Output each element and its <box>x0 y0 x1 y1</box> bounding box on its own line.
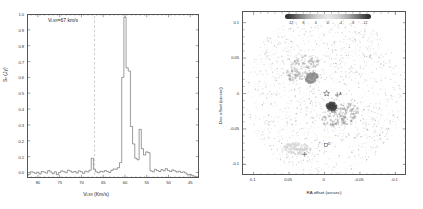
colorbar-tick: -8 <box>351 21 354 25</box>
map-x-tick: 0.05 <box>284 177 292 182</box>
map-y-axis-label: Dec offset (arcsec) <box>218 87 223 124</box>
maser-spectrum-panel: VLSR=67 km/s Sν (Jy) VLSR (Km/s) 8075706… <box>0 0 212 209</box>
map-x-tick: 0.1 <box>250 177 256 182</box>
map-x-tick: 0 <box>322 177 324 182</box>
marker-label-square-marker-c: C <box>335 108 337 112</box>
spectrum-x-tick: 70 <box>79 180 83 185</box>
position-map-panel: 12840-4-8-12 Dec offset (arcsec) RA offs… <box>212 0 423 209</box>
spectrum-y-tick: 0.2 <box>18 138 24 143</box>
map-cluster-sw-faint <box>283 142 312 155</box>
vlsr-annotation: VLSR=67 km/s <box>48 17 78 23</box>
spectrum-x-tick: 65 <box>101 180 105 185</box>
marker-label-square-marker-d: D <box>328 142 330 146</box>
colorbar-tick: 12 <box>289 21 293 25</box>
spectrum-y-tick: 0.7 <box>18 59 24 64</box>
spectrum-x-tick: 80 <box>36 180 40 185</box>
map-y-tick: 0.05 <box>231 55 239 60</box>
spectrum-x-axis-label: VLSR (Km/s) <box>83 191 109 197</box>
spectrum-y-label-subscript: ν <box>4 77 8 79</box>
spectrum-y-tick: 0.9 <box>18 27 24 32</box>
map-plot-frame <box>242 11 406 175</box>
spectrum-y-tick: 0.1 <box>18 154 24 159</box>
spectrum-x-label-suffix: (Km/s) <box>93 191 109 197</box>
colorbar-tick: 4 <box>315 21 317 25</box>
spectrum-y-tick: 1.0 <box>18 12 24 17</box>
spectrum-x-tick: 75 <box>57 180 61 185</box>
colorbar-tick: 8 <box>302 21 304 25</box>
map-y-tick: -0.1 <box>232 161 239 166</box>
colorbar-gradient <box>285 14 371 19</box>
spectrum-y-tick: 0.8 <box>18 43 24 48</box>
colorbar-tick: 0 <box>327 21 329 25</box>
map-svg <box>243 12 406 175</box>
colorbar-tick: -12 <box>362 21 367 25</box>
map-y-tick: -0.05 <box>230 125 239 130</box>
map-x-tick: -0.1 <box>391 177 398 182</box>
spectrum-x-tick: 45 <box>188 180 192 185</box>
spectrum-y-tick: 0.4 <box>18 107 24 112</box>
map-y-tick: 0.1 <box>233 19 239 24</box>
spectrum-y-label-suffix: (Jy) <box>2 67 8 77</box>
spectrum-y-tick: 0.6 <box>18 75 24 80</box>
figure-root: VLSR=67 km/s Sν (Jy) VLSR (Km/s) 8075706… <box>0 0 423 209</box>
vlsr-annotation-suffix: =67 km/s <box>58 17 78 23</box>
spectrum-x-tick: 50 <box>166 180 170 185</box>
colorbar-tick: -4 <box>339 21 342 25</box>
marker-label-cross-marker-a: A <box>339 92 341 96</box>
colorbar: 12840-4-8-12 <box>285 14 371 19</box>
spectrum-y-label-prefix: S <box>2 79 8 82</box>
map-x-tick: -0.05 <box>354 177 363 182</box>
spectrum-y-tick: 0.3 <box>18 122 24 127</box>
spectrum-x-tick: 55 <box>145 180 149 185</box>
spectrum-y-tick: 0.0 <box>18 170 24 175</box>
spectrum-svg <box>27 14 199 178</box>
spectrum-y-tick: 0.5 <box>18 91 24 96</box>
map-y-tick: 0 <box>237 90 239 95</box>
map-x-axis-label: RA offset (arcsec) <box>307 190 342 195</box>
spectrum-x-tick: 60 <box>123 180 127 185</box>
spectrum-y-axis-label: Sν (Jy) <box>2 67 8 82</box>
